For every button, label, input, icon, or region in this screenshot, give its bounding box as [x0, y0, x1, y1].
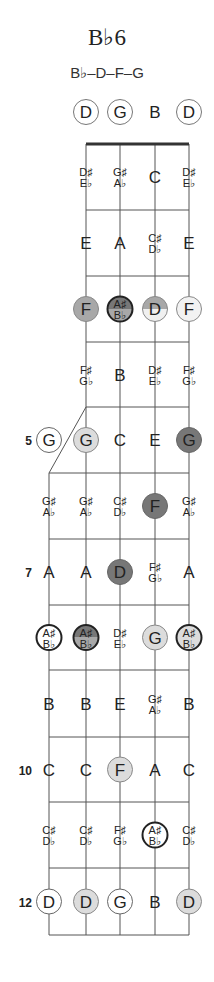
- note-label-flat: D♭: [149, 243, 162, 255]
- note-label-flat: B♭: [183, 638, 195, 650]
- note-label: G: [79, 431, 92, 450]
- note-label-flat: A♭: [80, 506, 92, 518]
- note-label: A: [43, 563, 55, 582]
- note-label: D: [80, 893, 92, 912]
- note-label: G: [182, 431, 195, 450]
- fret-number-marker: 12: [19, 896, 33, 910]
- note-label: E: [114, 695, 125, 714]
- fret-number-marker: 10: [19, 764, 33, 778]
- note-label-flat: A♭: [183, 506, 195, 518]
- note-label: G: [148, 629, 161, 648]
- note-label-flat: E♭: [80, 177, 92, 189]
- note-label-flat: G♭: [148, 572, 162, 584]
- note-label-flat: D♭: [183, 835, 196, 847]
- note-label-flat: D♭: [114, 506, 127, 518]
- note-label: A: [114, 234, 126, 253]
- note-label: E: [149, 431, 160, 450]
- note-label-flat: B♭: [80, 638, 92, 650]
- open-string-note: D: [80, 103, 92, 122]
- note-label-flat: G♭: [79, 375, 93, 387]
- note-label: A: [149, 761, 161, 780]
- fret-number-marker: 5: [25, 434, 32, 448]
- note-label: D: [43, 893, 55, 912]
- note-label: G: [113, 893, 126, 912]
- note-label: C: [114, 431, 126, 450]
- note-label-flat: G♭: [182, 375, 196, 387]
- note-label: B: [114, 366, 125, 385]
- fret-number-marker: 7: [25, 566, 32, 580]
- fretboard-diagram: DGBDD♯E♭G♯A♭CD♯E♭EAC♯D♭EFA♯B♭DFF♯G♭BD♯E♭…: [0, 0, 214, 982]
- note-label: B: [149, 893, 160, 912]
- note-label: B: [183, 695, 194, 714]
- note-label: F: [81, 300, 91, 319]
- note-label-flat: E♭: [114, 638, 126, 650]
- note-label: F: [184, 300, 194, 319]
- note-label-flat: B♭: [149, 835, 161, 847]
- note-label-flat: A♭: [149, 704, 161, 716]
- note-label: F: [150, 497, 160, 516]
- note-label: D: [114, 563, 126, 582]
- note-label-flat: G♭: [113, 835, 127, 847]
- open-string-note: D: [183, 103, 195, 122]
- note-label-flat: D♭: [43, 835, 56, 847]
- note-label: A: [183, 563, 195, 582]
- note-label: C: [80, 761, 92, 780]
- note-label-flat: E♭: [183, 177, 195, 189]
- note-label: D: [183, 893, 195, 912]
- note-label: E: [80, 234, 91, 253]
- note-label: E: [183, 234, 194, 253]
- note-label-flat: A♭: [43, 506, 55, 518]
- note-label-flat: E♭: [149, 375, 161, 387]
- note-label: F: [115, 761, 125, 780]
- note-label: C: [183, 761, 195, 780]
- open-string-note: B: [149, 103, 160, 122]
- note-label: C: [149, 168, 161, 187]
- open-string-note: G: [113, 103, 126, 122]
- note-label-flat: A♭: [114, 177, 126, 189]
- note-label-flat: B♭: [43, 638, 55, 650]
- note-label: A: [80, 563, 92, 582]
- note-label: B: [43, 695, 54, 714]
- note-label: C: [43, 761, 55, 780]
- note-label: D: [149, 300, 161, 319]
- note-label-flat: B♭: [114, 309, 126, 321]
- note-label-flat: D♭: [80, 835, 93, 847]
- note-label: G: [42, 431, 55, 450]
- note-label: B: [80, 695, 91, 714]
